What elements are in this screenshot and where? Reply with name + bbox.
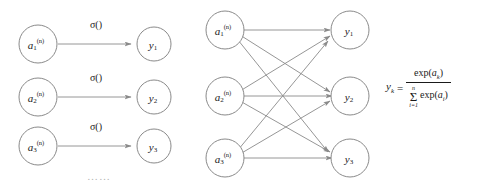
- middle-input-node-1[interactable]: [206, 11, 244, 49]
- middle-panel-group: a1(n) a2(n) a3(n) y1 y2 y3: [206, 11, 369, 177]
- middle-input-node-3[interactable]: [206, 139, 244, 177]
- left-input-node-3[interactable]: [19, 127, 57, 165]
- formula-fraction: exp(ak) n Σ i=1 exp(ai): [406, 68, 451, 108]
- left-row-3: a3(n) σ() y3: [19, 121, 171, 165]
- summation-symbol-group: n Σ i=1: [409, 85, 418, 108]
- formula-equals: =: [397, 82, 403, 94]
- denominator-exp-term: exp(ai): [420, 90, 448, 103]
- left-input-node-2[interactable]: [19, 78, 57, 116]
- softmax-formula: yk = exp(ak) n Σ i=1 exp(ai): [386, 68, 451, 108]
- formula-denominator: n Σ i=1 exp(ai): [406, 83, 451, 108]
- left-row-2: a2(n) σ() y2: [19, 72, 171, 116]
- edge-a2-y1: [240, 36, 330, 91]
- formula-numerator: exp(ak): [411, 68, 446, 82]
- left-row-1: a1(n) σ() y1: [19, 19, 171, 63]
- sigma-icon: Σ: [410, 91, 418, 102]
- figure-canvas: a1(n) σ() y1 a2(n) σ() y2: [0, 0, 478, 194]
- left-edge-label-1: σ(): [90, 19, 102, 31]
- middle-input-node-2[interactable]: [206, 77, 244, 115]
- left-edge-label-3: σ(): [90, 121, 102, 133]
- formula-lhs: yk: [386, 80, 394, 95]
- sum-lower-limit: i=1: [409, 102, 418, 108]
- left-edge-label-2: σ(): [90, 72, 102, 84]
- left-panel-group: a1(n) σ() y1 a2(n) σ() y2: [19, 19, 171, 182]
- numerator-exp-term: exp(ak): [414, 67, 443, 78]
- left-panel-ellipsis: ……: [87, 170, 111, 182]
- left-input-node-1[interactable]: [19, 25, 57, 63]
